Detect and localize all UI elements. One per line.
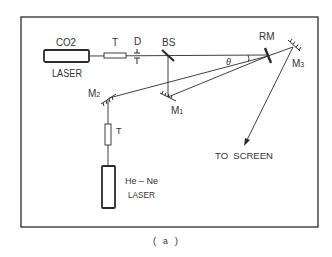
beam-splitter-label: BS <box>162 37 176 48</box>
hene-laser-sub: LASER <box>128 189 155 200</box>
hene-laser-name: He – Ne <box>125 176 158 186</box>
telescope-top <box>104 53 126 58</box>
rotating-mirror-label: RM <box>259 31 275 42</box>
mirror-m3-label: M3 <box>292 58 304 69</box>
beam-m1-rm <box>168 56 268 97</box>
mirror-m2-label: M2 <box>88 88 100 99</box>
detector-label: D <box>134 36 141 47</box>
telescope-top-label: T <box>112 37 118 48</box>
arrow-head-icon <box>244 138 250 146</box>
diagram-frame <box>21 17 318 227</box>
mirror-m3 <box>288 39 301 51</box>
telescope-bottom <box>105 124 111 145</box>
screen-label: TO SCREEN <box>215 150 273 161</box>
telescope-bottom-label: T <box>116 126 122 136</box>
optical-setup-diagram: CO2 LASER T D BS M1 θ RM <box>0 0 332 257</box>
hene-laser <box>102 166 115 208</box>
co2-laser <box>44 50 89 62</box>
mirror-m1-label: M1 <box>171 105 183 116</box>
detector <box>134 49 140 64</box>
mirror-m2 <box>101 94 116 106</box>
co2-laser-sub: LASER <box>52 68 82 79</box>
angle-arc <box>248 55 249 62</box>
angle-label: θ <box>226 57 231 67</box>
beam-m2-rm <box>109 56 268 98</box>
co2-laser-name: CO2 <box>56 37 76 48</box>
figure-caption: ( a ) <box>152 237 179 247</box>
